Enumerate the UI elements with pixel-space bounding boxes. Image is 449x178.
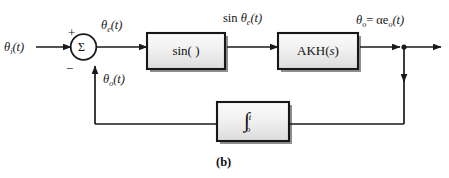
figure-caption: (b): [216, 156, 231, 169]
feedback-signal-label: θo(t): [103, 73, 125, 86]
output-signal-label: θo= αeo(t): [356, 14, 404, 27]
sine-block-label: sin( ): [147, 44, 225, 57]
error-signal-label: θe(t): [101, 19, 123, 32]
minus-sign-label: −: [66, 62, 73, 75]
integrator-block-label: ∫to: [244, 110, 256, 131]
sine-output-label: sin θe(t): [223, 12, 262, 25]
summing-junction-symbol: Σ: [78, 41, 85, 53]
input-signal-label: θi(t): [4, 41, 24, 54]
block-diagram-figure: θi(t) + − Σ θe(t) sin θe(t) θo= αeo(t) θ…: [0, 0, 449, 178]
plus-sign-label: +: [68, 26, 75, 39]
plant-block-label: AKH(s): [278, 44, 358, 57]
